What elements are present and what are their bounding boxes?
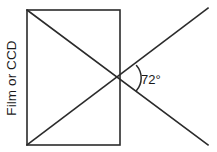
diagram-canvas: 72° Film or CCD [0, 0, 217, 152]
sensor-label: Film or CCD [4, 40, 19, 115]
diagram-background [0, 0, 217, 152]
optics-diagram: 72° Film or CCD [0, 0, 217, 152]
angle-label: 72° [141, 72, 161, 87]
